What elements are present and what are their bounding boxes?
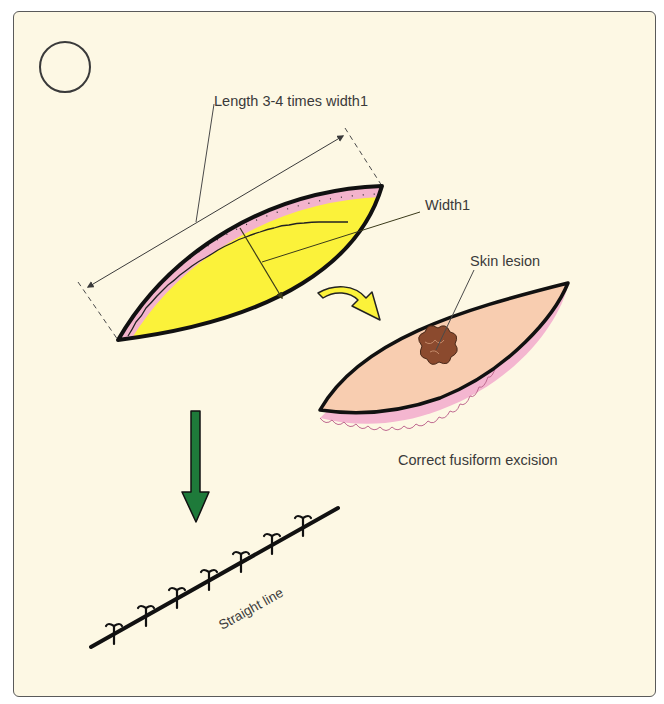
fusiform-excision-diagram: Length 3-4 times width1 Width1 Skin lesi… [0,0,664,704]
green-down-arrow-icon [182,411,209,522]
straight-line-label: Straight line [216,585,286,633]
lesion-label: Skin lesion [470,253,540,269]
width-label: Width1 [425,197,470,213]
sutured-line [91,508,338,647]
panel-marker-circle [40,42,90,92]
curved-yellow-arrow-icon [318,287,380,320]
length-label: Length 3-4 times width1 [214,93,368,109]
excision-label: Correct fusiform excision [398,452,558,468]
